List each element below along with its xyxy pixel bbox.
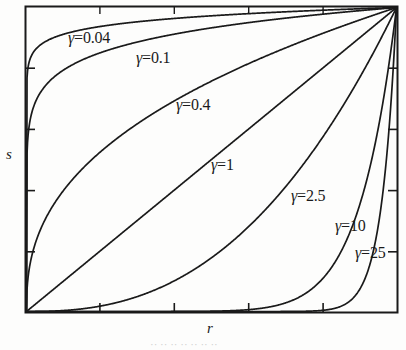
gamma-value: =0.4 [182, 96, 210, 113]
gamma-curves-figure: γ=0.04 γ=0.1 γ=0.4 γ=1 γ=2.5 γ=10 γ=25 s… [0, 0, 406, 350]
gamma-value: =25 [361, 244, 385, 261]
gamma-value: =0.04 [74, 29, 110, 46]
y-axis-title: s [6, 146, 12, 163]
curve-label-gamma-1: γ=1 [211, 156, 234, 174]
curve-label-gamma-0-04: γ=0.04 [68, 29, 110, 47]
curve-label-gamma-10: γ=10 [335, 217, 366, 235]
gamma-value: =2.5 [297, 187, 325, 204]
right-axis-ticks [388, 68, 398, 252]
curve-label-gamma-0-4: γ=0.4 [176, 96, 210, 114]
curve-label-gamma-0-1: γ=0.1 [136, 49, 170, 67]
caption-sliver: ·· ·· ·· ·· ·· ·· ·· [150, 338, 400, 348]
gamma-value: =0.1 [142, 49, 170, 66]
curve-label-gamma-2-5: γ=2.5 [291, 187, 325, 205]
curve-label-gamma-25: γ=25 [355, 244, 386, 262]
gamma-value: =1 [217, 156, 234, 173]
gamma-value: =10 [341, 217, 365, 234]
plot-canvas [0, 0, 406, 350]
x-axis-title: r [207, 320, 213, 337]
top-axis-ticks [100, 7, 323, 15]
